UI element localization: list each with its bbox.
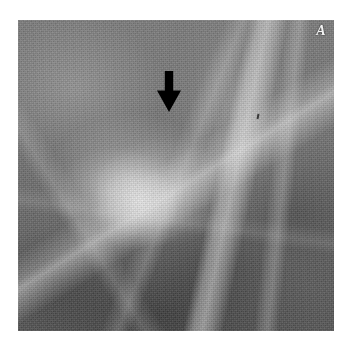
film-grain-layer bbox=[18, 20, 334, 331]
breast-parenchyma-layer bbox=[18, 20, 334, 331]
down-arrow-icon bbox=[156, 71, 182, 112]
fibroglandular-streaks-layer bbox=[18, 20, 334, 331]
speck-artifact-icon bbox=[256, 114, 259, 119]
panel-label: A bbox=[316, 24, 326, 38]
spiculated-mass-lesion bbox=[96, 132, 241, 256]
mammogram-image: A bbox=[18, 20, 334, 331]
figure-panel: A bbox=[0, 0, 348, 346]
